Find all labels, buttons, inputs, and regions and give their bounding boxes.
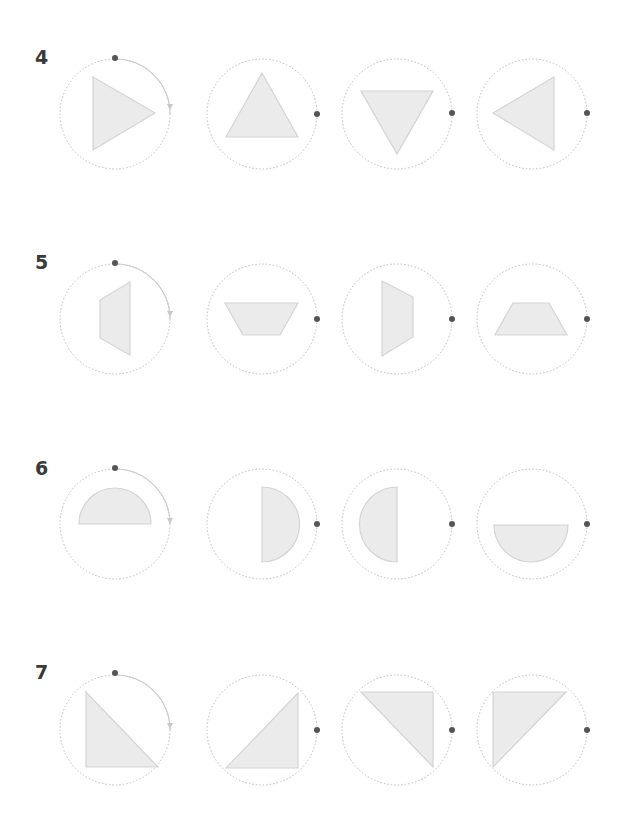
circle-4-3 [342,59,455,169]
marker-dot [449,110,455,116]
marker-dot [112,465,118,471]
marker-dot [112,260,118,266]
row-6 [60,465,590,579]
row-5 [60,260,590,374]
marker-dot [449,316,455,322]
trapezoid-wide-top [225,303,298,335]
circle-7-2 [207,675,320,785]
semicircle-left [360,487,398,562]
marker-dot [112,55,118,61]
circle-7-1 [60,670,173,785]
semicircle-down [494,525,568,562]
triangle-right [93,77,155,150]
right-triangle-top-right [361,692,433,767]
circle-6-3 [342,469,455,579]
marker-dot [314,521,320,527]
arrow-down-icon [167,723,173,729]
marker-dot [584,110,590,116]
arrow-down-icon [167,104,173,110]
rotation-diagram: .circ { fill:none; stroke:#bdbdbd; strok… [0,0,621,831]
row-7 [60,670,590,785]
marker-dot [314,316,320,322]
marker-dot [449,521,455,527]
semicircle-right [262,487,300,562]
circle-5-4 [477,264,590,374]
right-triangle-top-left [493,692,566,767]
arrow-down-icon [167,311,173,317]
right-triangle-bottom-left [86,692,158,767]
right-triangle-bottom-right [226,693,298,768]
circle-4-4 [477,59,590,169]
triangle-up [226,73,298,137]
circle-6-4 [477,469,590,579]
circle-6-2 [207,469,320,579]
trapezoid-wide-bottom [495,303,567,335]
marker-dot [584,521,590,527]
trapezoid-vertical [100,282,130,355]
arrow-down-icon [167,518,173,524]
circle-4-2 [207,59,320,169]
row-4 [60,55,590,169]
circle-5-1 [60,260,173,374]
circle-5-2 [207,264,320,374]
circle-7-4 [477,675,590,785]
marker-dot [584,316,590,322]
triangle-left [493,77,554,150]
marker-dot [449,727,455,733]
marker-dot [584,727,590,733]
circle-4-1 [60,55,173,169]
circle-7-3 [342,675,455,785]
marker-dot [314,727,320,733]
triangle-down [361,91,433,154]
marker-dot [112,670,118,676]
semicircle-up [79,488,151,524]
circle-5-3 [342,264,455,374]
rotation-arc-icon [115,675,170,730]
circle-6-1 [60,465,173,579]
marker-dot [314,111,320,117]
trapezoid-wide-left [382,281,413,356]
